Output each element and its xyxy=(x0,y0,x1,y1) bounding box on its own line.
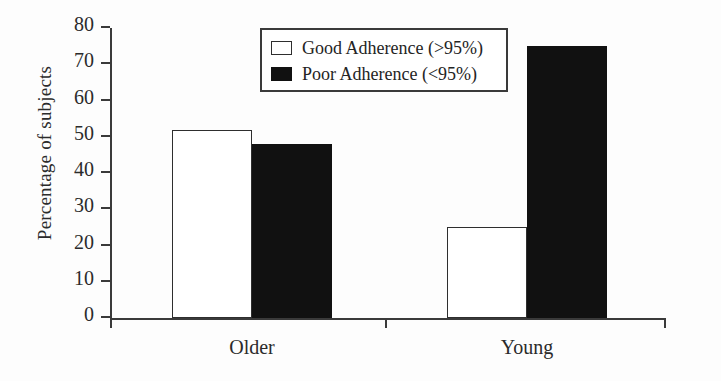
x-axis-tick xyxy=(110,318,112,328)
x-axis-spine xyxy=(110,318,666,320)
y-axis-spine xyxy=(110,28,112,319)
bar-older-poor-adherence xyxy=(252,144,332,318)
open-square-swatch-icon xyxy=(271,41,292,55)
y-axis-tick-label: 50 xyxy=(74,123,94,143)
y-axis-tick-label: 0 xyxy=(84,304,94,324)
x-axis-tick-label: Older xyxy=(172,336,332,359)
y-axis-tick: 80 xyxy=(101,26,110,28)
y-axis-tick: 10 xyxy=(101,280,110,282)
legend-label-poor-adherence: Poor Adherence (<95%) xyxy=(302,65,477,83)
y-axis-tick: 40 xyxy=(101,171,110,173)
legend-entry-poor-adherence: Poor Adherence (<95%) xyxy=(271,61,506,87)
y-axis-tick-label: 60 xyxy=(74,87,94,107)
legend-entry-good-adherence: Good Adherence (>95%) xyxy=(271,35,506,61)
y-axis-tick: 50 xyxy=(101,135,110,137)
y-axis-tick-label: 80 xyxy=(74,14,94,34)
bar-older-good-adherence xyxy=(172,130,252,319)
y-axis-tick: 30 xyxy=(101,207,110,209)
chart-figure: Percentage of subjects 01020304050607080… xyxy=(0,0,721,381)
y-axis-tick: 0 xyxy=(101,316,110,318)
y-axis-tick-label: 70 xyxy=(74,50,94,70)
y-axis-title: Percentage of subjects xyxy=(34,23,56,283)
filled-square-swatch-icon xyxy=(271,67,292,81)
x-axis-tick xyxy=(385,318,387,328)
y-axis-tick: 20 xyxy=(101,244,110,246)
y-axis-tick-label: 30 xyxy=(74,195,94,215)
x-axis-tick xyxy=(664,318,666,328)
chart-legend: Good Adherence (>95%) Poor Adherence (<9… xyxy=(260,28,508,92)
x-axis-tick-label: Young xyxy=(447,336,607,359)
legend-label-good-adherence: Good Adherence (>95%) xyxy=(302,39,483,57)
bar-young-poor-adherence xyxy=(527,46,607,318)
y-axis-tick-label: 20 xyxy=(74,232,94,252)
bar-young-good-adherence xyxy=(447,227,527,318)
y-axis-tick-label: 40 xyxy=(74,159,94,179)
y-axis-tick: 60 xyxy=(101,99,110,101)
y-axis-tick-label: 10 xyxy=(74,268,94,288)
y-axis-tick: 70 xyxy=(101,62,110,64)
